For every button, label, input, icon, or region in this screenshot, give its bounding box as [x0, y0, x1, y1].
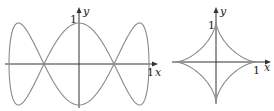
y-tick-label: 1 [70, 13, 77, 26]
y-axis-arrow-icon [77, 7, 82, 13]
y-axis-label: y [219, 5, 227, 18]
figure-canvas: 1 y 1 x 1 y 1 x [0, 0, 274, 111]
x-tick-label: 1 [147, 66, 154, 79]
y-tick-label: 1 [208, 19, 215, 32]
x-tick-label: 1 [253, 64, 260, 77]
x-axis-label: x [155, 66, 162, 79]
x-axis-label: x [264, 61, 271, 74]
right-figure: 1 y 1 x [172, 5, 271, 104]
y-axis-arrow-icon [214, 7, 219, 13]
y-axis-label: y [82, 5, 90, 18]
left-figure: 1 y 1 x [5, 5, 162, 108]
